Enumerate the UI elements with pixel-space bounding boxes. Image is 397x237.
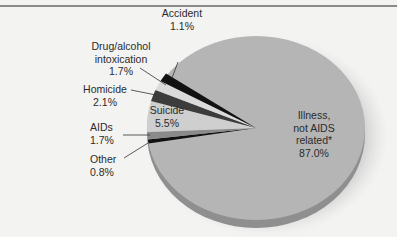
- label-accident-value: 1.1%: [157, 20, 207, 33]
- label-accident: Accident 1.1%: [157, 7, 207, 32]
- label-drug-alcohol: Drug/alcohol intoxication 1.7%: [86, 40, 156, 78]
- label-other: Other 0.8%: [90, 153, 120, 178]
- label-homicide-value: 2.1%: [80, 96, 130, 109]
- label-aids: AIDs 1.7%: [90, 121, 120, 146]
- label-drug-line1: Drug/alcohol: [86, 40, 156, 53]
- label-illness: Illness, not AIDS related* 87.0%: [282, 109, 346, 159]
- leader-homicide: [131, 90, 156, 95]
- label-drug-line2: intoxication: [86, 53, 156, 66]
- leader-other: [124, 143, 148, 158]
- label-suicide-value: 5.5%: [145, 117, 189, 130]
- label-suicide-name: Suicide: [145, 104, 189, 117]
- label-illness-line3: related*: [282, 134, 346, 147]
- label-other-value: 0.8%: [90, 166, 120, 179]
- label-accident-name: Accident: [157, 7, 207, 20]
- label-aids-name: AIDs: [90, 121, 120, 134]
- label-homicide-name: Homicide: [80, 83, 130, 96]
- label-aids-value: 1.7%: [90, 134, 120, 147]
- label-homicide: Homicide 2.1%: [80, 83, 130, 108]
- label-illness-line2: not AIDS: [282, 122, 346, 135]
- label-illness-value: 87.0%: [282, 147, 346, 160]
- label-other-name: Other: [90, 153, 120, 166]
- label-drug-value: 1.7%: [86, 65, 156, 78]
- label-illness-line1: Illness,: [282, 109, 346, 122]
- label-suicide: Suicide 5.5%: [145, 104, 189, 129]
